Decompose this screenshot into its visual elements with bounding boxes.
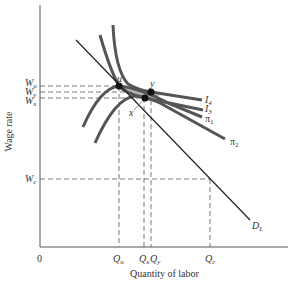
point-label-x: x — [129, 108, 133, 118]
x-tick-qx: Qx — [139, 254, 149, 267]
point-x — [142, 95, 149, 102]
curve-label-pi1: π1 — [205, 114, 214, 127]
y-tick-wc: Wc — [25, 174, 36, 187]
origin-label: 0 — [37, 254, 42, 264]
x-tick-qu: Qu — [113, 254, 124, 267]
point-label-y: y — [150, 79, 154, 89]
x-tick-qy: Qy — [150, 254, 160, 267]
curve-label-pi2: π2 — [230, 137, 239, 150]
point-y — [148, 89, 155, 96]
x-axis-title: Quantity of labor — [130, 268, 199, 279]
y-axis-title: Wage rate — [3, 112, 14, 152]
point-label-u: u — [117, 74, 122, 84]
curve-label-DL: DL — [252, 221, 263, 234]
y-tick-wx: Wx — [25, 96, 36, 109]
x-tick-qc: Qc — [205, 254, 215, 267]
labor-market-diagram — [0, 0, 298, 283]
